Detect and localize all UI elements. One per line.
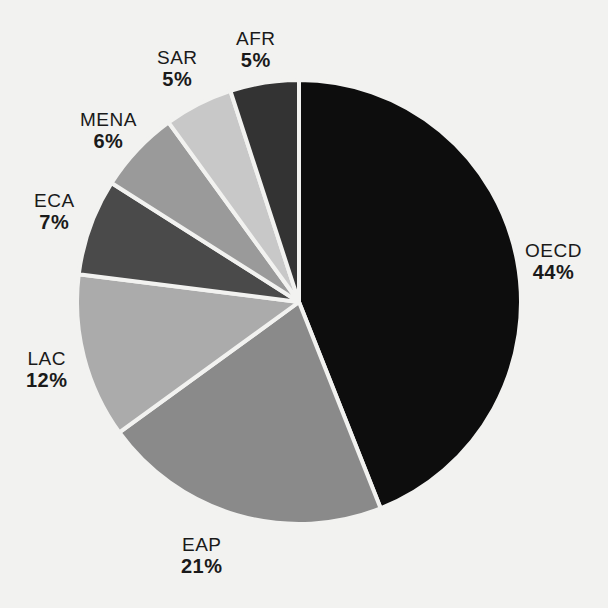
pie-label-eap: EAP 21% [181, 534, 223, 578]
pie-label-sar-name: SAR [157, 47, 198, 68]
pie-chart-canvas [0, 0, 608, 608]
pie-label-afr: AFR 5% [236, 28, 276, 72]
pie-chart: OECD 44% EAP 21% LAC 12% ECA 7% MENA 6% … [0, 0, 608, 608]
pie-label-mena: MENA 6% [80, 109, 137, 153]
pie-label-oecd: OECD 44% [525, 240, 582, 284]
pie-label-lac-name: LAC [26, 348, 68, 369]
pie-slice-group [77, 80, 521, 524]
pie-label-afr-value: 5% [236, 49, 276, 71]
pie-label-mena-value: 6% [80, 130, 137, 152]
pie-label-lac-value: 12% [26, 369, 68, 391]
pie-label-eap-value: 21% [181, 555, 223, 577]
pie-label-afr-name: AFR [236, 28, 276, 49]
pie-label-eap-name: EAP [181, 534, 223, 555]
pie-label-eca-value: 7% [34, 211, 75, 233]
pie-label-oecd-value: 44% [525, 261, 582, 283]
pie-label-eca-name: ECA [34, 190, 75, 211]
pie-label-oecd-name: OECD [525, 240, 582, 261]
pie-label-mena-name: MENA [80, 109, 137, 130]
pie-label-sar-value: 5% [157, 68, 198, 90]
pie-label-sar: SAR 5% [157, 47, 198, 91]
pie-label-eca: ECA 7% [34, 190, 75, 234]
pie-label-lac: LAC 12% [26, 348, 68, 392]
